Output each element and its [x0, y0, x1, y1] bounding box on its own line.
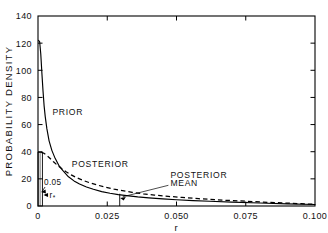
annotation-posterior-mean-line2: MEAN	[170, 178, 198, 188]
x-tick-label: 0.025	[95, 211, 120, 221]
y-tick-label: 100	[16, 66, 32, 76]
x-tick-label: 0	[35, 211, 40, 221]
probability-density-chart: 00.0250.0500.0750.100 020406080100120140…	[0, 0, 328, 233]
annotation-prior: PRIOR	[52, 107, 83, 117]
x-tick-label: 0.100	[303, 211, 328, 221]
x-tick-label: 0.075	[233, 211, 258, 221]
x-tick-label: 0.050	[164, 211, 189, 221]
y-tick-label: 120	[16, 39, 32, 49]
y-tick-label: 0	[27, 201, 32, 211]
annotation-posterior: POSTERIOR	[72, 159, 129, 169]
y-tick-label: 20	[21, 174, 32, 184]
y-tick-label: 40	[21, 147, 32, 157]
annotation-prior-mass-value: 0.05	[44, 178, 61, 187]
y-tick-label: 140	[16, 11, 32, 21]
figure-container: 00.0250.0500.0750.100 020406080100120140…	[0, 0, 328, 233]
x-tick-labels: 00.0250.0500.0750.100	[35, 211, 327, 221]
y-tick-label: 60	[21, 120, 32, 130]
x-axis-title: r	[175, 222, 179, 233]
y-axis-title: PROBABILITY DENSITY	[3, 46, 14, 177]
y-tick-labels: 020406080100120140	[16, 11, 32, 211]
y-tick-label: 80	[21, 93, 32, 103]
